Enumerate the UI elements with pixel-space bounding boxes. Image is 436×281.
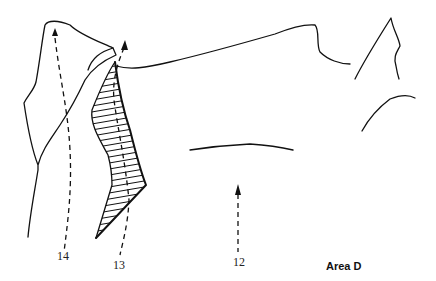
right-lower-arc xyxy=(362,95,415,131)
route-label-14: 14 xyxy=(57,249,69,264)
route-14-arrow-icon xyxy=(52,28,58,36)
main-ridge xyxy=(116,25,350,68)
route-14-line xyxy=(55,38,71,252)
topo-drawing xyxy=(0,0,436,281)
right-peak xyxy=(355,18,400,79)
left-pillar-outline xyxy=(24,21,116,237)
route-label-13: 13 xyxy=(113,258,125,273)
mid-horizon-line xyxy=(190,144,293,150)
route-12-arrow-icon xyxy=(235,184,241,195)
route-13-arrow-icon xyxy=(121,40,128,50)
hatched-buttress xyxy=(80,60,150,240)
area-title: Area D xyxy=(326,260,361,272)
route-label-12: 12 xyxy=(233,255,245,270)
buttress-left-edge xyxy=(92,62,115,238)
route-13-line xyxy=(114,48,129,255)
